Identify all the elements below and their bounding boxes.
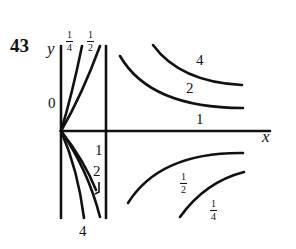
x-one-tick-label: 1 xyxy=(95,143,103,158)
label-right-lower-quarter: 14 xyxy=(210,199,217,222)
curve-four-down xyxy=(61,131,84,218)
label-quarter-up: 14 xyxy=(66,30,73,53)
y-axis-label: y xyxy=(47,40,55,57)
curve-quarter-up xyxy=(61,46,82,131)
x-axis-label: x xyxy=(262,128,270,145)
label-right-upper-four: 4 xyxy=(196,53,204,68)
label-right-lower-half: 12 xyxy=(180,172,187,195)
problem-number: 43 xyxy=(10,36,29,55)
label-right-upper-two: 2 xyxy=(186,81,194,96)
label-half-up: 12 xyxy=(87,30,94,53)
curve-right-upper-two xyxy=(120,56,243,108)
label-two-down: 2 xyxy=(93,164,101,179)
graph-canvas xyxy=(0,0,296,249)
solution-curves-figure: 43 y x 0 1 14 12 2 4 1 4 2 12 14 xyxy=(0,0,296,249)
label-four-down: 4 xyxy=(79,224,87,239)
label-horizontal-one: 1 xyxy=(196,112,204,127)
y-zero-tick-label: 0 xyxy=(48,96,56,111)
